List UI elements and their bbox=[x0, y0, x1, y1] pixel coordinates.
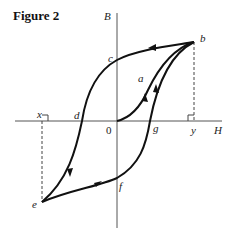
right-angle-x bbox=[42, 115, 48, 121]
label-d: d bbox=[74, 109, 80, 121]
right-angle-y bbox=[188, 115, 194, 121]
label-h-axis: H bbox=[213, 124, 223, 136]
ascending-branch bbox=[42, 42, 194, 202]
hysteresis-diagram: B H 0 a b c d e f g x y bbox=[0, 0, 238, 231]
arrow-icon bbox=[67, 168, 73, 177]
label-a: a bbox=[138, 72, 144, 84]
initial-curve bbox=[117, 42, 194, 121]
label-x: x bbox=[36, 108, 42, 120]
label-b-axis: B bbox=[104, 10, 111, 22]
label-g: g bbox=[153, 122, 159, 134]
figure-title: Figure 2 bbox=[13, 8, 59, 24]
label-b: b bbox=[200, 32, 206, 44]
label-c: c bbox=[108, 52, 113, 64]
label-e: e bbox=[32, 198, 37, 210]
hysteresis-figure: Figure 2 B H 0 a b c d bbox=[0, 0, 238, 231]
label-y: y bbox=[190, 124, 196, 136]
label-f: f bbox=[119, 180, 124, 192]
arrow-icon bbox=[142, 93, 148, 102]
label-origin: 0 bbox=[106, 124, 112, 136]
